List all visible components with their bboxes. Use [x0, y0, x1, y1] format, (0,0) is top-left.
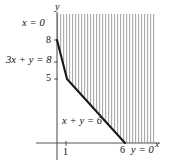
- label-x-equals-0: x = 0: [22, 18, 45, 29]
- x-tick-label-6: 6: [120, 145, 125, 155]
- x-axis-label: x: [155, 140, 159, 149]
- feasible-region-figure: x = 0 3x + y = 8 x + y = 6 y = 0 y x 8 5…: [0, 0, 169, 166]
- y-axis-label: y: [55, 2, 60, 12]
- y-tick-label-5: 5: [46, 73, 51, 83]
- label-3x-plus-y-equals-8: 3x + y = 8: [6, 55, 52, 66]
- y-tick-label-8: 8: [46, 35, 51, 45]
- label-y-equals-0: y = 0: [131, 145, 154, 156]
- label-x-plus-y-equals-6: x + y = 6: [62, 116, 102, 127]
- x-tick-label-1: 1: [63, 147, 68, 157]
